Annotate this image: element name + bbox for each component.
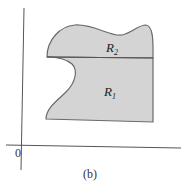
region-r1: [46, 57, 153, 122]
origin-label: 0: [15, 146, 21, 160]
region-diagram: R2 R1 0 (b): [0, 0, 181, 190]
figure-caption: (b): [83, 167, 97, 181]
x-axis: [6, 145, 181, 148]
region-r2: [47, 25, 153, 58]
